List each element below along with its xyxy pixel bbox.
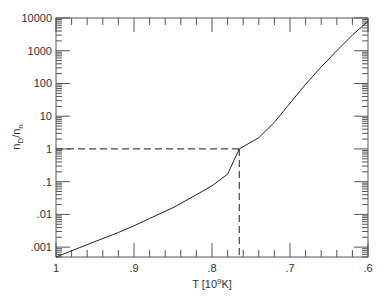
- y-tick-label: .001: [31, 241, 52, 253]
- x-tick-label: .9: [129, 262, 138, 274]
- y-tick-labels: 100001000100101.1.01.001: [21, 12, 52, 253]
- x-tick-label: 1: [53, 262, 59, 274]
- y-tick-label: 10: [40, 110, 52, 122]
- x-tick-label: .7: [285, 262, 294, 274]
- chart: 100001000100101.1.01.001 1.9.8.7.6 T [10…: [0, 0, 382, 302]
- x-axis-label: T [109K]: [192, 277, 232, 290]
- x-tick-label: .6: [363, 262, 372, 274]
- axis-ticks: [56, 18, 368, 257]
- y-tick-label: .01: [37, 208, 52, 220]
- x-tick-label: .8: [207, 262, 216, 274]
- data-curve: [56, 21, 368, 257]
- y-axis-label: nD/nn: [10, 124, 25, 150]
- y-tick-label: 1000: [28, 45, 52, 57]
- y-tick-label: .1: [43, 176, 52, 188]
- y-tick-label: 10000: [21, 12, 52, 24]
- y-tick-label: 100: [34, 77, 52, 89]
- x-tick-labels: 1.9.8.7.6: [53, 262, 373, 274]
- plot-frame: [56, 18, 368, 257]
- y-tick-label: 1: [46, 143, 52, 155]
